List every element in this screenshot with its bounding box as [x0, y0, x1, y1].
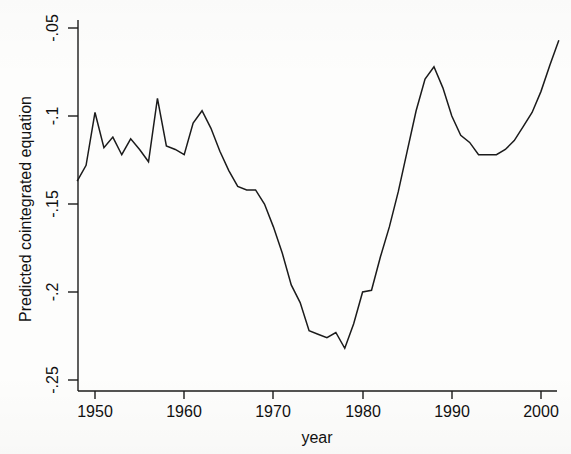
x-axis-title: year	[301, 429, 333, 446]
x-tick-label: 1960	[166, 403, 202, 420]
x-tick-label: 2000	[523, 403, 559, 420]
y-tick-label: -.05	[44, 14, 61, 42]
y-axis-title: Predicted cointegrated equation	[17, 96, 34, 322]
line-chart-canvas: Predicted cointegrated equation -.05 -.1…	[0, 0, 571, 454]
x-tick-label: 1970	[255, 403, 291, 420]
y-tick-label: -.25	[44, 366, 61, 394]
y-tick-label: -.2	[44, 283, 61, 302]
y-tick-label: -.15	[44, 190, 61, 218]
x-tick-label: 1980	[345, 403, 381, 420]
y-tick-label: -.1	[44, 107, 61, 126]
x-tick-label: 1950	[77, 403, 113, 420]
x-tick-label: 1990	[434, 403, 470, 420]
data-series-line	[77, 40, 559, 348]
chart-figure: Predicted cointegrated equation -.05 -.1…	[0, 0, 571, 454]
